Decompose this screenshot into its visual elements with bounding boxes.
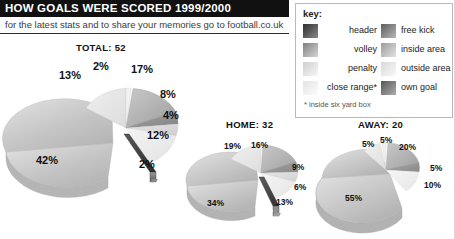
infographic-root: HOW GOALS WERE SCORED 1999/2000 for the … xyxy=(0,0,455,239)
legend-label: free kick xyxy=(401,25,435,35)
total-slice-label-close-range: 42% xyxy=(36,154,58,166)
home-slice-label-own-goal: 3% xyxy=(262,205,273,214)
legend-label: header xyxy=(303,25,377,35)
legend-item-penalty: penalty xyxy=(303,60,379,79)
legend-item-free-kick: free kick xyxy=(381,22,451,41)
legend-label: volley xyxy=(303,44,377,54)
home-slice-label-volley: 16% xyxy=(251,140,268,150)
total-slice-label-free-kick: 8% xyxy=(160,88,176,100)
home-slice-label-outside-area: 13% xyxy=(276,197,293,207)
total-slice-label-volley: 17% xyxy=(131,63,153,75)
total-slice-label-gap: 2% xyxy=(93,60,109,72)
legend-label: penalty xyxy=(303,63,377,73)
total-slice-label-own-goal: 2% xyxy=(139,158,155,170)
total-slice-label-header: 13% xyxy=(59,69,81,81)
total-slice-label-inside-area: 4% xyxy=(163,109,179,121)
total-slice-label-outside-area: 12% xyxy=(147,129,169,141)
legend-label: close range* xyxy=(303,82,377,92)
legend-swatch-free-kick xyxy=(381,24,396,38)
away-slice-label-gap: 5% xyxy=(380,135,392,145)
header-bar: HOW GOALS WERE SCORED 1999/2000 xyxy=(0,0,289,17)
away-slice-label-inside-area: 10% xyxy=(424,180,441,190)
legend-footnote: * inside six yard box xyxy=(304,100,371,109)
legend-item-volley: volley xyxy=(303,41,379,60)
legend-column-right: free kick inside area outside area own g… xyxy=(381,22,451,98)
legend-label: outside area xyxy=(401,63,451,73)
home-slice-label-close-range: 34% xyxy=(207,198,224,208)
legend-item-close-range: close range* xyxy=(303,79,379,98)
legend-swatch-inside-area xyxy=(381,43,396,57)
header-subbar: for the latest stats and to share your m… xyxy=(0,17,289,34)
legend-label: own goal xyxy=(401,82,437,92)
legend-swatch-own-goal xyxy=(381,81,396,95)
home-slice-label-free-kick: 9% xyxy=(292,162,304,172)
away-slice-label-header: 5% xyxy=(362,139,374,149)
home-slice-label-inside-area: 6% xyxy=(294,182,306,192)
away-slice-label-volley: 20% xyxy=(399,142,416,152)
legend-item-header: header xyxy=(303,22,379,41)
home-slice-label-header: 19% xyxy=(224,141,241,151)
total-pie-chart xyxy=(0,50,200,230)
legend-label: inside area xyxy=(401,44,445,54)
away-slice-label-close-range: 55% xyxy=(345,193,362,203)
legend-column-left: header volley penalty close range* xyxy=(303,22,379,98)
page-title: HOW GOALS WERE SCORED 1999/2000 xyxy=(5,2,231,14)
legend-item-inside-area: inside area xyxy=(381,41,451,60)
away-slice-label-free-kick: 5% xyxy=(430,163,442,173)
legend-item-own-goal: own goal xyxy=(381,79,451,98)
legend-title: key: xyxy=(303,8,322,19)
page-subtitle: for the latest stats and to share your m… xyxy=(5,19,283,30)
legend-box: key: header volley penalty close range* xyxy=(295,3,453,118)
legend-swatch-outside-area xyxy=(381,62,396,76)
legend-item-outside-area: outside area xyxy=(381,60,451,79)
